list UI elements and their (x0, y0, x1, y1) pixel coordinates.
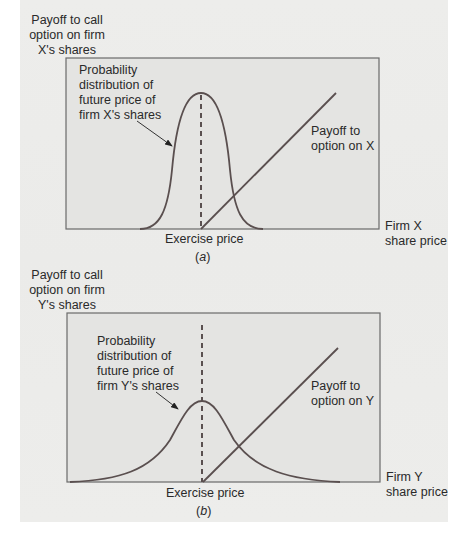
label-line: Y's shares (28, 298, 106, 313)
label-line: Payoff to call (28, 13, 106, 28)
label-line: future price of (79, 93, 161, 108)
label-line: Probability (79, 63, 161, 78)
label-line: share price (385, 234, 447, 249)
label-line: option on firm (28, 28, 106, 43)
label-line: distribution of (79, 78, 161, 93)
label-line: share price (386, 485, 448, 500)
label-line: firm Y's shares (97, 379, 179, 394)
panel-b-distribution-label: Probability distribution of future price… (97, 334, 179, 394)
panel-b-y-axis-label: Payoff to call option on firm Y's shares (28, 268, 106, 313)
label-line: X's shares (28, 43, 106, 58)
panel-b-caption: (b) (196, 504, 211, 519)
label-line: firm X's shares (79, 108, 161, 123)
label-line: option on Y (311, 394, 374, 409)
panel-b-x-axis-label: Firm Y share price (386, 470, 448, 500)
label-line: Payoff to (311, 379, 374, 394)
panel-a-distribution-label: Probability distribution of future price… (79, 63, 161, 123)
panel-a-y-axis-label: Payoff to call option on firm X's shares (28, 13, 106, 58)
panel-b-exercise-price-label: Exercise price (166, 486, 245, 501)
panel-a-caption: (a) (195, 250, 210, 265)
panel-a-payoff-label: Payoff to option on X (311, 124, 374, 154)
label-line: future price of (97, 364, 179, 379)
label-line: Firm X (385, 219, 447, 234)
panel-a-exercise-price-label: Exercise price (165, 232, 244, 247)
label-line: Probability (97, 334, 179, 349)
label-line: Payoff to (311, 124, 374, 139)
label-line: option on firm (28, 283, 106, 298)
panel-b-payoff-label: Payoff to option on Y (311, 379, 374, 409)
caption-paren: ) (207, 504, 211, 518)
label-line: option on X (311, 139, 374, 154)
panel-a-x-axis-label: Firm X share price (385, 219, 447, 249)
label-line: distribution of (97, 349, 179, 364)
label-line: Firm Y (386, 470, 448, 485)
label-line: Payoff to call (28, 268, 106, 283)
caption-paren: ) (206, 250, 210, 264)
